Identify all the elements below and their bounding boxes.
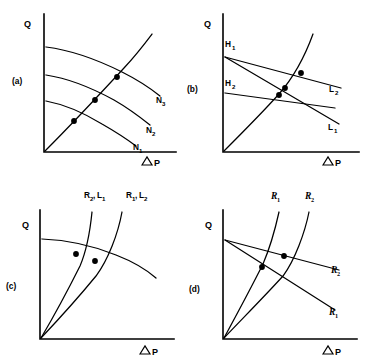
panel-c-curve-r2l1 (41, 212, 92, 338)
panel-b-curve-upward (224, 34, 313, 151)
panel-d-label-r2-top-sub: 2 (311, 196, 314, 203)
panel-d-x-axis-label-p: P (335, 347, 341, 357)
panel-a-label-n1-sub: 1 (139, 147, 143, 154)
panel-b-label-h1: H 1 (225, 39, 236, 51)
panel-d-label-r1-top-sub: 1 (277, 196, 280, 203)
panel-d-plot: Q (d) R 1 R 2 R 2 (183, 182, 366, 364)
panel-a-delta-icon (142, 157, 152, 165)
panel-c-intersection-2 (92, 258, 98, 264)
panel-a-intersection-2 (92, 97, 98, 103)
panel-d-delta-icon (323, 346, 333, 354)
panel-b-tag: (b) (187, 84, 198, 94)
panel-c-x-axis-label-p: P (152, 347, 158, 357)
panel-b-line-h1-l2 (225, 57, 341, 88)
panel-c-curve-r1l2 (41, 212, 122, 338)
panel-c: Q (c) R 2 , L 1 R 1 , L (0, 182, 183, 364)
panel-d-label-r2-top: R 2 (304, 191, 314, 203)
panel-c-label-r2l1-s2: 1 (102, 195, 106, 202)
panel-d-line-r1-down (225, 240, 335, 310)
panel-b-x-axis-label-p: P (335, 158, 341, 168)
panel-a-label-n2-sub: 2 (152, 130, 156, 137)
panel-b-label-h1-base: H (225, 39, 231, 49)
panel-a-label-n3: N 3 (156, 95, 166, 107)
panel-c-y-axis-label: Q (22, 220, 29, 230)
panel-a-curve-n1 (46, 101, 136, 146)
panel-d: Q (d) R 1 R 2 R 2 (183, 182, 366, 364)
panel-b-label-l1: L 1 (328, 122, 338, 134)
panel-c-delta-icon (140, 346, 150, 354)
panel-b-x-axis-label: P (323, 157, 341, 168)
panel-c-plot: Q (c) R 2 , L 1 R 1 , L (0, 182, 183, 364)
panel-a-label-n3-sub: 3 (162, 100, 166, 107)
panel-d-curve-r2-up (224, 212, 309, 338)
panel-c-label-r2l1: R 2 , L 1 (84, 190, 106, 202)
panel-a-y-axis-label: Q (24, 19, 31, 29)
panel-a-intersection-3 (114, 74, 120, 80)
panel-c-label-r1l2-sep: , (135, 190, 137, 200)
panel-d-label-r1-right: R 1 (328, 307, 338, 319)
panel-c-label-r1l2: R 1 , L 2 (126, 190, 148, 202)
panel-a-intersection-1 (71, 118, 77, 124)
panel-b-label-l2: L 2 (329, 84, 339, 96)
panel-b-plot: Q (b) H 1 H 2 L (183, 0, 366, 182)
panel-a: Q (a) N 3 N 2 N (0, 0, 183, 182)
panel-b-label-l1-sub: 1 (334, 127, 338, 134)
figure-container: Q (a) N 3 N 2 N (0, 0, 366, 364)
panel-a-plot: Q (a) N 3 N 2 N (0, 0, 183, 182)
panel-d-intersection-2 (281, 253, 287, 259)
panel-d-label-r2-right: R 2 (330, 265, 340, 277)
panel-a-label-n2: N 2 (146, 125, 156, 137)
panel-b-label-l1-base: L (328, 122, 333, 132)
panel-a-x-axis-label-p: P (154, 158, 160, 168)
panel-b-y-axis-label: Q (204, 19, 211, 29)
panel-d-curve-r1-up (224, 212, 279, 338)
panel-b-delta-icon (323, 157, 333, 165)
panel-d-label-r2-right-sub: 2 (337, 270, 340, 277)
panel-b: Q (b) H 1 H 2 L (183, 0, 366, 182)
panel-b-label-l2-sub: 2 (335, 89, 339, 96)
panel-b-label-h2-base: H (225, 78, 231, 88)
panel-c-x-axis-label: P (140, 346, 158, 357)
panel-b-intersection-3 (298, 70, 304, 76)
panel-c-tag: (c) (6, 281, 16, 291)
panel-a-tag: (a) (12, 76, 22, 86)
panel-b-intersection-2 (282, 85, 288, 91)
panel-c-label-r2l1-sep: , (93, 190, 95, 200)
panel-a-x-axis-label: P (142, 157, 160, 168)
panel-d-tag: (d) (189, 284, 200, 294)
panel-b-intersection-1 (276, 92, 282, 98)
panel-d-y-axis-label: Q (205, 220, 212, 230)
panel-a-curve-n3 (46, 47, 160, 96)
panel-b-label-l2-base: L (329, 84, 334, 94)
panel-c-label-r1l2-s2: 2 (144, 195, 148, 202)
panel-d-label-r1-top: R 1 (270, 191, 280, 203)
panel-b-label-h1-sub: 1 (232, 44, 236, 51)
panel-d-x-axis-label: P (323, 346, 341, 357)
panel-a-curve-n2 (46, 75, 150, 125)
panel-d-intersection-1 (259, 264, 265, 270)
panel-d-label-r1-right-sub: 1 (335, 312, 338, 319)
panel-c-intersection-1 (73, 251, 79, 257)
panel-b-label-h2-sub: 2 (232, 83, 236, 90)
panel-c-axes (40, 210, 174, 339)
panel-b-label-h2: H 2 (225, 78, 236, 90)
